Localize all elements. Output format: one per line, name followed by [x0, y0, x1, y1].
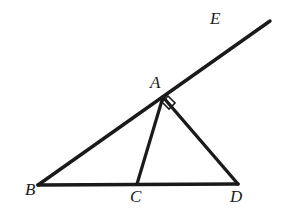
vertex-label-a: A: [150, 74, 160, 91]
vertex-label-d: D: [230, 188, 242, 205]
vertex-label-e: E: [210, 10, 220, 27]
geometry-figure: A B C D E: [0, 0, 282, 219]
vertex-label-b: B: [25, 181, 35, 198]
vertex-label-c: C: [130, 188, 141, 205]
